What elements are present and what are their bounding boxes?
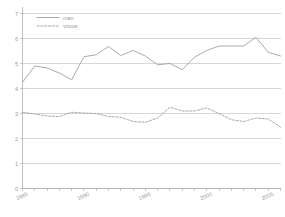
y-tick-label-5: 5	[15, 61, 18, 67]
x-tick-label-1990: 1990	[76, 191, 90, 201]
x-tick-label-2005: 2005	[261, 191, 275, 201]
y-tick-label-6: 6	[15, 36, 18, 42]
y-tick-label-3: 3	[15, 111, 18, 117]
y-tick-label-4: 4	[15, 86, 18, 92]
x-tick-label-1985: 1985	[15, 191, 29, 201]
series-line-man	[23, 37, 281, 82]
legend-label-man: man	[63, 15, 74, 21]
legend-label-vrouw: vrouw	[63, 23, 77, 29]
y-tick-label-2: 2	[15, 136, 18, 142]
y-tick-label-1: 1	[15, 161, 18, 167]
series-line-vrouw	[23, 107, 281, 127]
line-chart: 0123456719851990199520002005manvrouw	[0, 0, 285, 217]
chart-canvas: 0123456719851990199520002005manvrouw	[0, 0, 285, 217]
y-tick-label-0: 0	[15, 186, 18, 192]
x-tick-label-2000: 2000	[199, 191, 213, 201]
y-tick-label-7: 7	[15, 11, 18, 17]
x-tick-label-1995: 1995	[138, 191, 152, 201]
